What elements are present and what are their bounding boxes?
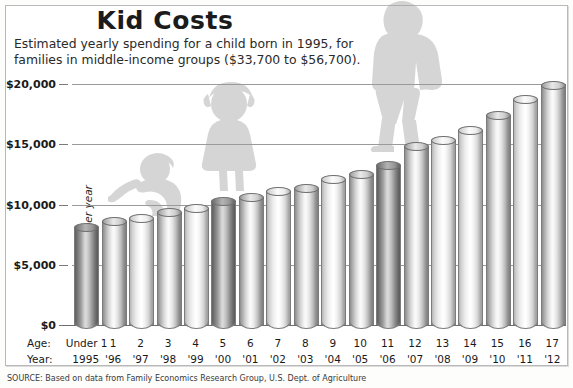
bar-cap	[404, 142, 429, 151]
bar	[541, 85, 566, 325]
bar-cap	[321, 175, 346, 184]
bar-cap	[431, 136, 456, 145]
age-label: 17	[532, 337, 572, 349]
y-axis-tick	[59, 265, 68, 266]
source-note: SOURCE: Based on data from Family Econom…	[7, 374, 366, 383]
bar-cap	[266, 187, 291, 196]
bar	[239, 197, 264, 325]
y-axis-tick-label: $15,000	[6, 138, 56, 151]
bar-cap	[541, 81, 566, 90]
bar-cap	[239, 193, 264, 202]
bar	[211, 201, 236, 325]
bar-cap	[486, 111, 511, 120]
bar-cap	[157, 208, 182, 217]
bar-cap	[294, 184, 319, 193]
y-axis-tick-label: $0	[41, 319, 56, 332]
bar-cap	[102, 217, 127, 226]
y-axis-tick	[59, 84, 68, 85]
y-axis-tick-label: $5,000	[14, 258, 56, 271]
age-row: Age: Under 11234567891011121314151617	[0, 337, 573, 351]
year-row: Year: 1995'96'97'98'99'00'01'02'03'04'05…	[0, 353, 573, 367]
bar	[376, 165, 401, 325]
bar	[294, 188, 319, 325]
bar	[102, 221, 127, 325]
kid-costs-infographic: Kid Costs Estimated yearly spending for …	[0, 0, 573, 388]
plot-area: Cost per year $0$5,000$10,000$15,000$20,…	[72, 60, 566, 325]
bar-cap	[458, 126, 483, 135]
bar-cap	[513, 95, 538, 104]
y-axis-tick	[59, 205, 68, 206]
bar-cap	[349, 170, 374, 179]
page-title: Kid Costs	[0, 6, 330, 35]
gridline	[72, 84, 566, 85]
age-row-label: Age:	[27, 337, 51, 349]
bar	[184, 208, 209, 325]
year-row-label: Year:	[27, 353, 53, 365]
bar	[404, 146, 429, 325]
bar-cap	[184, 204, 209, 213]
y-axis-tick-label: $10,000	[6, 198, 56, 211]
y-axis-tick-label: $20,000	[6, 78, 56, 91]
bar	[266, 191, 291, 325]
bar-cap	[376, 161, 401, 170]
year-label: '12	[532, 353, 572, 365]
bar-cap	[129, 214, 154, 223]
bar	[431, 140, 456, 326]
bar	[74, 227, 99, 325]
bar	[349, 174, 374, 325]
y-axis-tick	[59, 144, 68, 145]
bar	[486, 115, 511, 325]
bar	[129, 218, 154, 325]
bar	[157, 212, 182, 325]
bar	[321, 179, 346, 325]
bar	[458, 130, 483, 325]
bar	[513, 99, 538, 325]
page-subtitle-line1: Estimated yearly spending for a child bo…	[14, 36, 344, 52]
bar-cap	[74, 223, 99, 232]
bar-cap	[211, 197, 236, 206]
